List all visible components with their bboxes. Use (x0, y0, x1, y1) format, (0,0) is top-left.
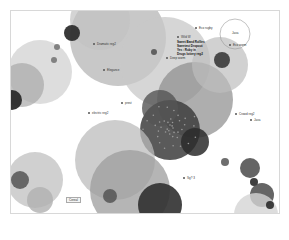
child-node-dot (165, 131, 167, 133)
node-marker-icon (103, 69, 105, 71)
node-label-text: Java (254, 118, 260, 122)
node-marker-icon (235, 113, 237, 115)
child-node-dot (166, 128, 168, 130)
child-node-dot (153, 114, 155, 116)
node-marker-icon (121, 102, 123, 104)
bubble-node[interactable] (221, 158, 229, 166)
node-marker-icon (93, 43, 95, 45)
tooltip-line: Drugs lottery reg2 (177, 52, 205, 56)
node-marker-icon (250, 119, 252, 121)
bubble-node[interactable] (214, 52, 230, 68)
child-node-dot (154, 125, 156, 127)
bubble-node[interactable] (103, 189, 117, 203)
child-node-dot (193, 125, 195, 127)
node-label[interactable]: Sg? 3 (183, 176, 195, 180)
child-node-dot (177, 131, 179, 133)
bubble-node[interactable] (27, 187, 53, 213)
child-node-dot (169, 133, 171, 135)
node-label-text: Wild W (181, 35, 191, 39)
child-node-dot (172, 136, 174, 138)
child-node-dot (184, 118, 186, 120)
child-node-dot (172, 127, 174, 129)
node-label-text: Crowd reg2 (239, 112, 255, 116)
child-node-dot (160, 126, 162, 128)
highlighted-node-label: Java (232, 31, 238, 35)
child-node-dot (188, 143, 190, 145)
bubble-node[interactable] (151, 49, 157, 55)
child-node-dot (181, 129, 183, 131)
bubble-node[interactable] (266, 201, 274, 209)
node-label-text: electric reg2 (92, 111, 108, 115)
node-label[interactable]: Crowd reg2 (235, 112, 255, 116)
child-node-dot (194, 116, 196, 118)
child-node-dot (142, 128, 144, 130)
node-label-text: Dramatic reg2 (97, 42, 116, 46)
child-node-dot (157, 136, 159, 138)
node-label[interactable]: Wild W (177, 35, 191, 39)
bubble-node[interactable] (240, 158, 260, 178)
child-node-dot (172, 122, 174, 124)
bubble-node[interactable] (64, 25, 80, 41)
child-node-dot (173, 132, 175, 134)
node-marker-icon (88, 112, 90, 114)
node-label[interactable]: Dramatic reg2 (93, 42, 116, 46)
bubble-node[interactable] (11, 171, 29, 189)
child-node-dot (167, 122, 169, 124)
child-node-dot (169, 124, 171, 126)
node-marker-icon (166, 57, 168, 59)
node-label-text: Deep worm (170, 56, 185, 60)
child-node-dot (146, 120, 148, 122)
child-node-dot (171, 125, 173, 127)
node-label[interactable]: electric reg2 (88, 111, 108, 115)
child-node-dot (179, 120, 181, 122)
child-node-dot (173, 110, 175, 112)
bubble-node[interactable] (54, 44, 60, 50)
child-node-dot (184, 124, 186, 126)
child-node-dot (159, 121, 161, 123)
node-label-text: Eco worm (233, 43, 246, 47)
child-node-dot (170, 118, 172, 120)
node-search-label[interactable]: Cereal (66, 197, 81, 203)
node-marker-icon (195, 27, 197, 29)
child-node-dot (195, 136, 197, 138)
child-node-dot (158, 130, 160, 132)
child-node-dot (177, 115, 179, 117)
child-node-dot (166, 106, 168, 108)
child-node-dot (151, 147, 153, 149)
child-node-dot (159, 142, 161, 144)
child-node-dot (168, 130, 170, 132)
node-marker-icon (183, 177, 185, 179)
node-label[interactable]: prest (121, 101, 132, 105)
node-label-text: prest (125, 101, 132, 105)
hover-tooltip: Sweet Band Rollies Sweetest Dropout Yes … (177, 40, 205, 56)
child-node-dot (163, 120, 165, 122)
child-node-dot (177, 137, 179, 139)
child-node-dot (158, 106, 160, 108)
node-label[interactable]: Java (250, 118, 260, 122)
node-label[interactable]: Elegance (103, 68, 120, 72)
node-label[interactable]: Eco rugby (195, 26, 213, 30)
node-marker-icon (229, 44, 231, 46)
bubble-node[interactable] (51, 57, 57, 63)
node-label[interactable]: Eco worm (229, 43, 246, 47)
node-label-text: Eco rugby (199, 26, 213, 30)
bubble-node[interactable] (181, 128, 209, 156)
node-label-text: Sg? 3 (187, 176, 195, 180)
child-node-dot (180, 145, 182, 147)
child-node-dot (164, 147, 166, 149)
node-label-text: Elegance (107, 68, 120, 72)
child-node-dot (172, 145, 174, 147)
node-label[interactable]: Deep worm (166, 56, 185, 60)
node-marker-icon (177, 36, 179, 38)
